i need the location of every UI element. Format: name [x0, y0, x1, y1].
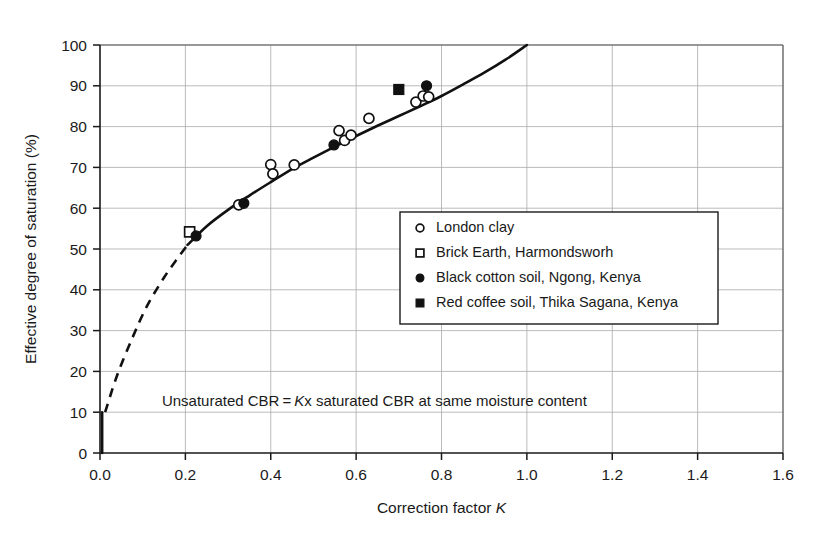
x-axis-title-symbol: K	[496, 499, 507, 516]
data-point	[422, 81, 432, 91]
extrapolated-curve	[105, 245, 187, 412]
data-point	[364, 113, 374, 123]
chart-canvas: 0.00.20.40.60.81.01.21.41.6 010203040506…	[0, 0, 824, 533]
x-axis-title-text: Correction factor	[377, 499, 496, 516]
legend-item: Black cotton soil, Ngong, Kenya	[416, 269, 642, 285]
chart-figure: 0.00.20.40.60.81.01.21.41.6 010203040506…	[0, 0, 824, 533]
y-tick-label: 90	[70, 77, 88, 94]
y-tick-label: 100	[61, 37, 87, 54]
data-point	[334, 126, 344, 136]
data-point	[394, 84, 404, 94]
y-tick-label: 20	[70, 363, 88, 380]
annotation-before: Unsaturated CBR =	[162, 392, 294, 409]
y-tick-label: 0	[78, 445, 87, 462]
extrapolated-curve-path	[105, 245, 187, 412]
y-axis-title: Effective degree of saturation (%)	[22, 134, 39, 364]
data-point	[329, 140, 339, 150]
y-tick-label: 70	[70, 159, 88, 176]
y-tick-label: 10	[70, 404, 88, 421]
x-tick-label: 0.4	[260, 466, 282, 483]
x-tick-label: 0.0	[89, 466, 111, 483]
legend-marker-icon	[416, 299, 424, 307]
data-point	[268, 169, 278, 179]
y-tick-labels-group: 0102030405060708090100	[61, 37, 87, 462]
legend-item-label: London clay	[436, 219, 515, 235]
y-tick-label: 50	[70, 241, 88, 258]
data-point	[346, 130, 356, 140]
x-tick-label: 1.0	[516, 466, 538, 483]
legend-marker-icon	[416, 224, 424, 232]
legend-item-label: Black cotton soil, Ngong, Kenya	[436, 269, 642, 285]
legend-marker-icon	[416, 249, 424, 257]
series-red-coffee-soil-thika-sagana-kenya	[394, 84, 404, 94]
x-axis-title: Correction factor K	[377, 499, 507, 516]
annotation-after: x saturated CBR at same moisture content	[304, 392, 587, 409]
data-point	[266, 160, 276, 170]
series-black-cotton-soil-ngong-kenya	[191, 81, 432, 241]
x-tick-label: 1.2	[601, 466, 623, 483]
legend-item: Red coffee soil, Thika Sagana, Kenya	[416, 294, 679, 310]
y-tick-label: 60	[70, 200, 88, 217]
y-tick-label: 40	[70, 281, 88, 298]
legend-item: Brick Earth, Harmondsworh	[416, 244, 613, 260]
data-point	[239, 198, 249, 208]
data-point	[289, 160, 299, 170]
plot-annotation: Unsaturated CBR = Kx saturated CBR at sa…	[162, 392, 588, 409]
x-tick-label: 0.6	[345, 466, 367, 483]
y-tick-label: 80	[70, 118, 88, 135]
x-tick-label: 0.8	[431, 466, 453, 483]
data-point	[191, 231, 201, 241]
x-tick-label: 1.4	[687, 466, 709, 483]
legend: London clayBrick Earth, HarmondsworhBlac…	[400, 212, 718, 324]
legend-item-label: Red coffee soil, Thika Sagana, Kenya	[436, 294, 679, 310]
y-tick-label: 30	[70, 322, 88, 339]
data-point	[424, 92, 434, 102]
legend-item-label: Brick Earth, Harmondsworh	[436, 244, 613, 260]
x-tick-labels-group: 0.00.20.40.60.81.01.21.41.6	[89, 466, 794, 483]
legend-marker-icon	[416, 274, 424, 282]
x-tick-label: 1.6	[772, 466, 794, 483]
x-tick-label: 0.2	[175, 466, 197, 483]
